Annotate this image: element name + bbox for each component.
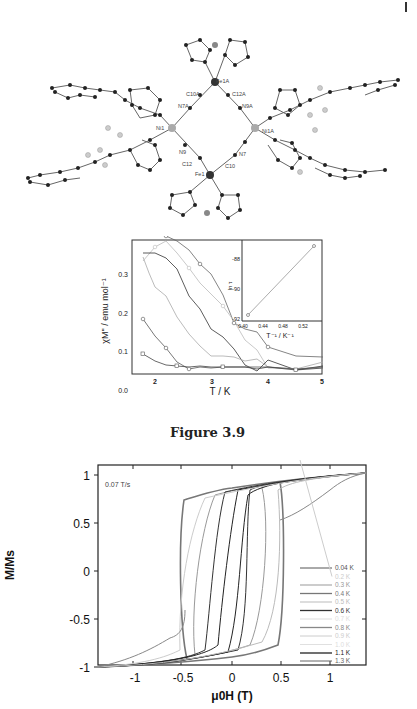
label-n7a: N7A [178, 103, 189, 109]
inset-x-label: T⁻¹ / K⁻¹ [266, 332, 294, 339]
inset-fit-line [248, 246, 314, 315]
ni1a-atom [251, 124, 259, 132]
loop-0.04K-up [98, 473, 366, 667]
inset-ytick: -88 [232, 256, 240, 262]
ytick: 0.3 [118, 271, 128, 278]
label-fe1: Fe1 [195, 171, 204, 177]
ytick: -1 [79, 661, 90, 675]
figure-caption: Figure 3.9 [170, 425, 245, 440]
inset-ytick: -90 [232, 286, 240, 292]
hysteresis-chart: 1 0.5 0 -0.5 -1 -1 -0.5 0 0.5 1 μ0H (T) … [0, 460, 417, 709]
legend-item: 0.9 K [335, 632, 351, 639]
ytick-zero: 0.0 [118, 387, 128, 394]
label-c10a: C10A [186, 91, 200, 97]
label-n7: N7 [239, 151, 246, 157]
xtick: 0.5 [273, 671, 290, 685]
legend-item: 0.04 K [335, 564, 354, 571]
xtick: -0.5 [173, 671, 194, 685]
legend-item: 1.0 K [335, 641, 351, 648]
inset-xtick: 0.40 [238, 323, 248, 329]
loop-1.1K-down [98, 473, 366, 667]
series-hexagon [143, 319, 323, 369]
xtick: 2 [153, 378, 157, 385]
ni1-atom [168, 124, 176, 132]
legend-item: 0.8 K [335, 624, 351, 631]
legend-item: 0.6 K [335, 607, 351, 614]
label-c12a: C12A [232, 91, 246, 97]
inset-xtick: 0.48 [278, 323, 288, 329]
ytick: 0.5 [73, 517, 90, 531]
legend-item: 0.7 K [335, 615, 351, 622]
xtick: 4 [266, 378, 270, 385]
loop-0.6K-down [98, 473, 366, 667]
ytick: 0.2 [118, 310, 128, 317]
legend-item: 1.1 K [335, 649, 351, 656]
x-axis-label: T / K [210, 386, 231, 396]
y-axis-label: M/Ms [3, 550, 17, 580]
step-lower-left [98, 610, 185, 667]
x-axis-label: μ0H (T) [211, 689, 252, 703]
label-fe1a: Fe1A [216, 78, 229, 84]
inset-chart: -88 -90 -92 0.40 0.44 0.48 0.52 T⁻¹ / K⁻… [227, 240, 322, 339]
ytick: -0.5 [69, 613, 90, 627]
ytick: 0 [83, 565, 90, 579]
legend-item: 0.3 K [335, 581, 351, 588]
label-n9: N9 [179, 149, 186, 155]
loop-0.2K [98, 473, 366, 667]
loop-0.04K-down [98, 473, 366, 667]
inset-y-label: ln τ [227, 281, 233, 290]
inset-xtick: 0.52 [298, 323, 308, 329]
ytick: 1 [83, 469, 90, 483]
legend-item: 1.3 K [335, 657, 351, 664]
xtick: 0 [229, 671, 236, 685]
legend-item: 0.5 K [335, 598, 351, 605]
xtick: 1 [327, 671, 334, 685]
legend: 0.04 K 0.2 K 0.3 K 0.4 K 0.5 K 0.6 K 0.7… [300, 460, 354, 664]
loop-0.3K-down [98, 473, 366, 667]
inset-ytick: -92 [232, 316, 240, 322]
crystal-structure-diagram: Fe1A C10A C12A N7A N9A Ni1 Ni1A N9 N7 C1… [0, 0, 417, 230]
loop-0.3K-up [98, 473, 366, 667]
plot-frame [132, 240, 322, 374]
series-diamond [143, 257, 323, 369]
inset-xtick: 0.44 [258, 323, 268, 329]
loop-0.6K-up [98, 473, 366, 667]
label-ni1a: Ni1A [262, 128, 274, 134]
fe1-atom [206, 171, 214, 179]
label-c10: C10 [225, 163, 235, 169]
label-n9a: N9A [242, 103, 253, 109]
xtick: 5 [320, 378, 324, 385]
ytick: 0.1 [118, 348, 128, 355]
xtick: 3 [210, 378, 214, 385]
label-ni1: Ni1 [156, 125, 164, 131]
sweep-rate-annotation: 0.07 T/s [105, 481, 131, 488]
label-c12: C12 [182, 161, 192, 167]
y-axis-label: χM'' / emu mol⁻¹ [100, 278, 110, 344]
xtick: -1 [130, 671, 141, 685]
loop-0.5K [98, 473, 366, 667]
loop-1.1K-up [98, 473, 366, 667]
legend-item: 0.4 K [335, 590, 351, 597]
legend-item: 0.2 K [335, 573, 351, 580]
ac-susceptibility-chart: 0.3 0.2 0.1 0.0 0.0 2 3 4 5 T / K χM'' /… [90, 236, 340, 396]
